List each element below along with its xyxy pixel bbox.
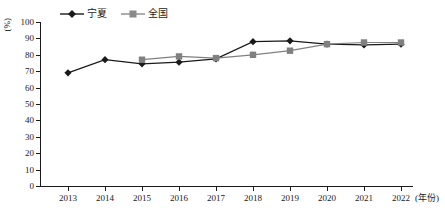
legend-label-ningxia: 宁夏	[87, 9, 107, 19]
y-tick-label: 90	[25, 34, 34, 43]
x-tick	[290, 187, 291, 191]
x-tick	[327, 187, 328, 191]
legend-label-national: 全国	[148, 9, 168, 19]
x-tick-label: 2019	[281, 194, 299, 203]
x-tick	[142, 187, 143, 191]
series-layer	[40, 22, 413, 187]
data-point-marker	[176, 53, 182, 59]
line-chart: (%) 宁夏 全国 0102030405060708090100 2013201…	[0, 0, 445, 218]
diamond-marker-icon	[60, 9, 84, 19]
data-point-marker	[139, 57, 145, 63]
x-tick	[105, 187, 106, 191]
y-tick-label: 40	[25, 116, 34, 125]
data-point-marker	[175, 59, 182, 66]
data-point-marker	[286, 37, 293, 44]
x-tick-label: 2014	[96, 194, 114, 203]
x-tick-label: 2013	[59, 194, 77, 203]
x-tick	[216, 187, 217, 191]
x-axis-unit-label: (年份)	[415, 194, 439, 203]
x-tick	[364, 187, 365, 191]
x-tick-label: 2015	[133, 194, 151, 203]
y-tick-label: 100	[21, 18, 35, 27]
x-tick-label: 2022	[392, 194, 410, 203]
x-tick-label: 2017	[207, 194, 225, 203]
x-tick-label: 2016	[170, 194, 188, 203]
data-point-marker	[287, 48, 293, 54]
data-point-marker	[361, 39, 367, 45]
y-tick-label: 70	[25, 67, 34, 76]
y-tick-label: 20	[25, 149, 34, 158]
y-tick-label: 60	[25, 83, 34, 92]
y-axis-unit-label: (%)	[2, 18, 12, 32]
x-tick-label: 2020	[318, 194, 336, 203]
data-point-marker	[398, 39, 404, 45]
chart-legend: 宁夏 全国	[60, 9, 168, 19]
data-point-marker	[324, 41, 330, 47]
data-point-marker	[64, 69, 71, 76]
plot-area: 0102030405060708090100 20132014201520162…	[40, 22, 413, 187]
legend-item-ningxia: 宁夏	[60, 9, 107, 19]
data-point-marker	[101, 56, 108, 63]
x-tick	[401, 187, 402, 191]
y-tick-label: 50	[25, 100, 34, 109]
square-marker-icon	[121, 9, 145, 19]
x-tick	[68, 187, 69, 191]
y-tick-label: 30	[25, 132, 34, 141]
data-point-marker	[213, 55, 219, 61]
x-tick-label: 2021	[355, 194, 373, 203]
x-tick-label: 2018	[244, 194, 262, 203]
data-point-marker	[249, 38, 256, 45]
data-point-marker	[250, 52, 256, 58]
y-tick-label: 0	[30, 182, 35, 191]
x-tick	[253, 187, 254, 191]
x-tick	[179, 187, 180, 191]
y-tick-label: 80	[25, 50, 34, 59]
y-tick-label: 10	[25, 165, 34, 174]
legend-item-national: 全国	[121, 9, 168, 19]
